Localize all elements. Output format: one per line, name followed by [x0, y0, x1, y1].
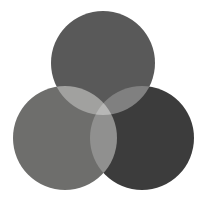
venn-diagram-figure	[0, 0, 207, 204]
venn-diagram-canvas	[0, 0, 207, 204]
venn-circle-bottom-right	[90, 86, 194, 190]
